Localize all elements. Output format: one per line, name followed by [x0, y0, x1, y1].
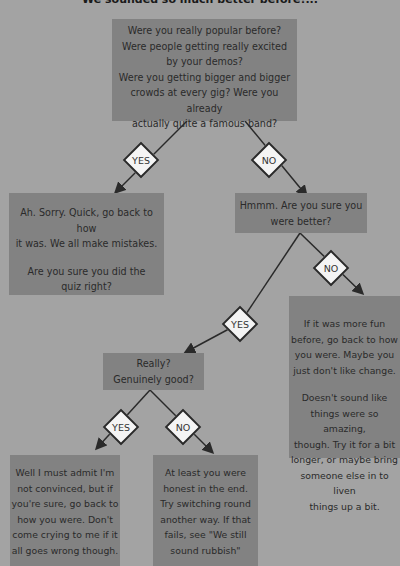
node-text: just don't like change.: [289, 363, 400, 379]
node-text: If it was more fun: [289, 316, 400, 332]
node-text: Ah. Sorry. Quick, go back to how: [13, 205, 160, 236]
node-text: things up a bit.: [289, 499, 400, 515]
answer-honest-in-end: At least you were honest in the end. Try…: [153, 455, 258, 566]
node-text: someone else in to liven: [289, 468, 400, 499]
node-text: Were people getting really excited: [116, 39, 293, 55]
node-text: things were so amazing,: [289, 406, 400, 437]
node-text: At least you were: [153, 465, 258, 481]
node-text: Genuinely good?: [107, 372, 200, 388]
question-popular-before: Were you really popular before? Were peo…: [112, 19, 297, 121]
node-text: you were. Maybe you: [289, 347, 400, 363]
node-text: come crying to me if it: [10, 527, 120, 543]
node-text: not convinced, but if: [10, 481, 120, 497]
node-text: were better?: [239, 214, 363, 230]
decision-yes-label: YES: [220, 319, 260, 331]
node-text: quiz right?: [13, 279, 160, 295]
node-text: Hmmm. Are you sure you: [239, 198, 363, 214]
node-text: Doesn't sound like: [289, 390, 400, 406]
question-genuinely-good: Really? Genuinely good?: [103, 353, 204, 390]
node-text: Were you really popular before?: [116, 23, 293, 39]
node-text: sound rubbish": [153, 543, 258, 559]
answer-not-convinced: Well I must admit I'm not convinced, but…: [10, 455, 120, 566]
node-text: fails, see "We still: [153, 527, 258, 543]
node-text: another way. If that: [153, 512, 258, 528]
node-text: Were you getting bigger and bigger: [116, 70, 293, 86]
answer-more-fun-before: If it was more fun before, go back to ho…: [289, 296, 400, 458]
node-text: crowds at every gig? Were you already: [116, 85, 293, 116]
question-sure-better: Hmmm. Are you sure you were better?: [235, 193, 367, 233]
answer-go-back-mistakes: Ah. Sorry. Quick, go back to how it was.…: [9, 193, 164, 295]
decision-no-label: NO: [163, 422, 203, 434]
node-text: though. Try it for a bit: [289, 437, 400, 453]
node-text: Really?: [107, 356, 200, 372]
decision-yes-label: YES: [121, 155, 161, 167]
decision-yes-label: YES: [101, 422, 141, 434]
node-text: longer, or maybe bring: [289, 452, 400, 468]
node-text: all goes wrong though.: [10, 543, 120, 559]
decision-no-label: NO: [311, 263, 351, 275]
decision-no-label: NO: [249, 155, 289, 167]
node-text: Try switching round: [153, 496, 258, 512]
node-text: it was. We all make mistakes.: [13, 236, 160, 252]
node-text: how you were. Don't: [10, 512, 120, 528]
node-text: before, go back to how: [289, 332, 400, 348]
node-text: Are you sure you did the: [13, 264, 160, 280]
node-text: by your demos?: [116, 54, 293, 70]
node-text: honest in the end.: [153, 481, 258, 497]
node-text: Well I must admit I'm: [10, 465, 120, 481]
node-text: you're sure, go back to: [10, 496, 120, 512]
node-text: actually quite a famous band?: [116, 116, 293, 132]
